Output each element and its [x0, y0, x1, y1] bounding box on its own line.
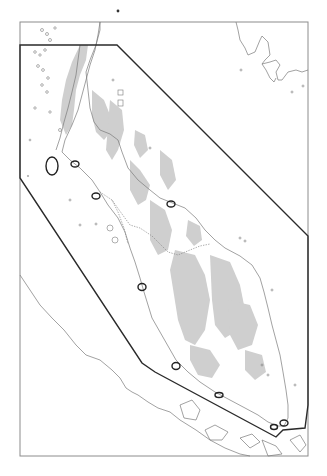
coastline-northeast: [236, 22, 308, 80]
map-canvas: [0, 0, 327, 476]
site-marker[interactable]: [172, 363, 180, 370]
site-marker[interactable]: [167, 201, 175, 207]
site-marker[interactable]: [46, 157, 58, 175]
top-marker-dot: [117, 10, 120, 13]
site-marker[interactable]: [271, 425, 278, 430]
coastline-riau: [180, 400, 306, 456]
highland-shading: [60, 45, 266, 380]
coastline-northeast-bay: [262, 64, 276, 82]
site-markers: [46, 157, 288, 430]
site-marker[interactable]: [92, 193, 100, 199]
map-figure: [0, 0, 327, 476]
site-marker[interactable]: [280, 420, 288, 426]
site-marker[interactable]: [215, 393, 223, 398]
